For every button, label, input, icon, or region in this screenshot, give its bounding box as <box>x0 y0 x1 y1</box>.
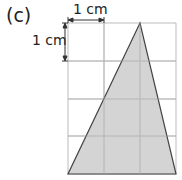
grid-diagram <box>0 0 182 180</box>
horizontal-scale-arrow <box>68 17 104 23</box>
vertical-scale-arrow <box>62 23 68 61</box>
